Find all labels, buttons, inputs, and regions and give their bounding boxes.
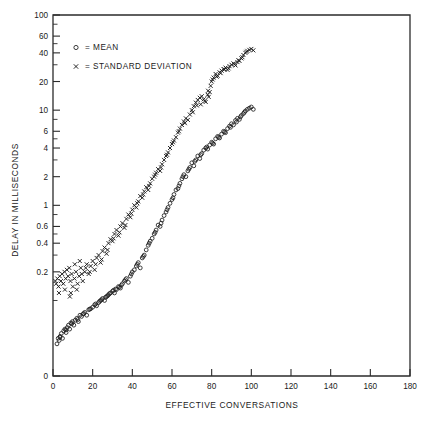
x-tick-label: 140	[324, 382, 338, 391]
x-tick-label: 180	[403, 382, 417, 391]
data-point-stddev	[57, 291, 61, 295]
x-tick-label: 40	[128, 382, 138, 391]
data-point-stddev	[79, 266, 83, 270]
data-point-stddev	[93, 268, 97, 272]
data-point-stddev	[72, 277, 76, 281]
data-point-mean	[198, 157, 202, 161]
data-point-stddev	[94, 262, 98, 266]
data-point-stddev	[117, 230, 121, 234]
data-point-stddev	[71, 285, 75, 289]
scatter-plot: 00.20.40.6124610204060100 02040608010012…	[0, 0, 432, 425]
data-point-stddev	[116, 234, 120, 238]
data-point-mean	[164, 210, 168, 214]
x-tick-label: 80	[207, 382, 217, 391]
data-point-stddev	[76, 282, 80, 286]
y-tick-label: 0	[43, 372, 48, 381]
y-tick-label: 20	[39, 78, 49, 87]
y-tick-label: 0.4	[37, 239, 49, 248]
data-point-stddev	[81, 279, 85, 283]
data-point-stddev	[61, 282, 65, 286]
data-point-stddev	[101, 249, 105, 253]
data-point-mean	[154, 228, 158, 232]
y-axis-title: DELAY IN MILLISECONDS	[10, 143, 20, 257]
y-tick-label: 6	[43, 127, 48, 136]
legend-marker-stddev	[74, 64, 78, 68]
y-tick-label: 0.6	[37, 222, 49, 231]
data-point-stddev	[160, 162, 164, 166]
data-point-stddev	[75, 288, 79, 292]
data-point-stddev	[68, 279, 72, 283]
data-point-stddev	[162, 158, 166, 162]
data-point-mean	[168, 201, 172, 205]
data-point-stddev	[74, 270, 78, 274]
data-point-stddev	[85, 262, 89, 266]
data-point-stddev	[68, 295, 72, 299]
y-tick-label: 0.2	[37, 268, 49, 277]
y-axis-ticks: 00.20.40.6124610204060100	[34, 11, 60, 381]
data-point-stddev	[112, 232, 116, 236]
data-point-stddev	[140, 196, 144, 200]
data-point-mean	[150, 236, 154, 240]
y-tick-label: 40	[39, 49, 49, 58]
data-point-stddev	[124, 217, 128, 221]
data-point-stddev	[99, 261, 103, 265]
data-point-stddev	[134, 205, 138, 209]
y-tick-label: 60	[39, 32, 49, 41]
data-point-stddev	[73, 262, 77, 266]
y-tick-label: 4	[43, 144, 48, 153]
data-point-stddev	[69, 291, 73, 295]
data-point-stddev	[206, 89, 210, 93]
data-point-stddev	[130, 208, 134, 212]
legend-label: = MEAN	[85, 43, 119, 52]
y-tick-label: 1	[43, 201, 48, 210]
x-tick-label: 120	[284, 382, 298, 391]
data-point-stddev	[168, 146, 172, 150]
data-points-layer	[53, 47, 255, 346]
x-axis-title: EFFECTIVE CONVERSATIONS	[165, 400, 298, 410]
data-point-stddev	[199, 102, 203, 106]
y-tick-label: 2	[43, 173, 48, 182]
data-point-stddev	[67, 266, 71, 270]
y-tick-label: 10	[39, 106, 49, 115]
data-point-stddev	[66, 274, 70, 278]
data-point-stddev	[100, 257, 104, 261]
data-point-stddev	[89, 264, 93, 268]
data-point-stddev	[158, 169, 162, 173]
data-point-stddev	[105, 252, 109, 256]
x-tick-label: 160	[363, 382, 377, 391]
data-point-stddev	[107, 241, 111, 245]
x-tick-label: 60	[167, 382, 177, 391]
series-mean	[55, 105, 255, 346]
data-point-stddev	[63, 288, 67, 292]
data-point-mean	[138, 266, 142, 270]
data-point-stddev	[78, 259, 82, 263]
x-tick-label: 0	[51, 382, 56, 391]
legend-label: = STANDARD DEVIATION	[85, 62, 192, 71]
data-point-mean	[192, 164, 196, 168]
data-point-stddev	[209, 84, 213, 88]
y-tick-label: 100	[34, 11, 48, 20]
figure-container: 00.20.40.6124610204060100 02040608010012…	[0, 0, 432, 425]
x-axis-ticks: 020406080100120140160180	[51, 369, 418, 391]
legend-marker-mean	[74, 45, 78, 49]
x-tick-label: 100	[244, 382, 258, 391]
data-point-stddev	[106, 248, 110, 252]
chart-legend: = MEAN= STANDARD DEVIATION	[74, 43, 192, 71]
data-point-stddev	[128, 215, 132, 219]
data-point-stddev	[70, 272, 74, 276]
data-point-mean	[144, 248, 148, 252]
data-point-mean	[211, 141, 215, 145]
series-standard-deviation	[53, 47, 255, 299]
data-point-stddev	[84, 266, 88, 270]
data-point-stddev	[57, 285, 61, 289]
data-point-stddev	[251, 48, 255, 52]
x-tick-label: 20	[88, 382, 98, 391]
